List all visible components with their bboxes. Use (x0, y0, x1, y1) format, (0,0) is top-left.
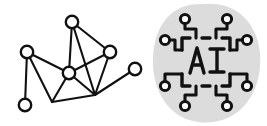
network-graph (19, 16, 141, 111)
graph-edge (25, 52, 27, 105)
pad-top-left (180, 14, 189, 23)
pad-right-upper (242, 35, 251, 44)
blob-background (153, 4, 260, 123)
pad-bottom-right (222, 101, 231, 110)
graph-node-far-right (129, 63, 141, 75)
ai-chip-icon (153, 4, 260, 123)
graph-edge (52, 95, 95, 102)
graph-node-top (66, 16, 78, 28)
graph-node-center (63, 67, 75, 79)
pad-right-lower (242, 81, 251, 90)
graph-edge (69, 22, 72, 73)
graph-edges (25, 22, 135, 105)
graph-node-bottom-left (19, 99, 31, 111)
pad-left-lower (160, 81, 169, 90)
graph-edge (27, 52, 52, 102)
graph-node-right-upper (104, 46, 116, 58)
illustration-svg (0, 0, 267, 126)
pad-top-right (222, 14, 231, 23)
illustration-canvas (0, 0, 267, 126)
pad-bottom-left (180, 101, 189, 110)
pad-left-upper (160, 35, 169, 44)
graph-node-left (21, 46, 33, 58)
